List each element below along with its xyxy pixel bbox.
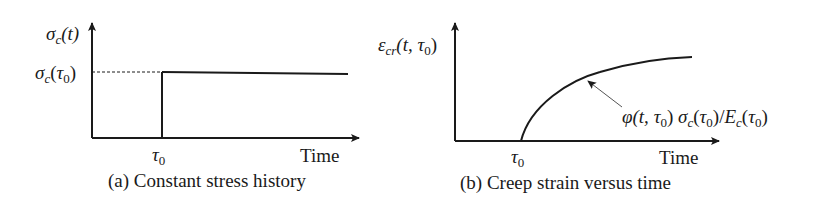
panel-b-annotation-leader <box>588 81 622 107</box>
subscript: 0 <box>159 153 166 168</box>
subscript: cr <box>386 43 397 58</box>
subscript: 0 <box>518 155 525 170</box>
panel-a-tau0-tick-label: τ0 <box>152 145 165 167</box>
panel-a-level-label: σc(τ0) <box>35 63 76 85</box>
phi-symbol: φ <box>622 106 633 127</box>
panel-a-caption: (a) Constant stress history <box>108 171 306 190</box>
paren: ) <box>761 106 767 127</box>
panel-b-curve-annotation: φ(t, τ0) σc(τ0)/Ec(τ0) <box>622 107 768 129</box>
epsilon-symbol: ε <box>378 34 386 55</box>
tau-symbol: τ <box>748 106 755 127</box>
panel-a-x-axis-label: Time <box>300 146 339 165</box>
argument: (t, <box>396 34 417 55</box>
panel-b-x-axis-label: Time <box>659 148 698 167</box>
paren: ) <box>431 34 437 55</box>
panel-b-y-axis-label: εcr(t, τ0) <box>378 35 437 57</box>
sigma-symbol: σ <box>35 62 44 83</box>
tau-symbol: τ <box>152 144 159 165</box>
panel-b-caption: (b) Creep strain versus time <box>460 173 671 192</box>
paren: ) <box>70 62 76 83</box>
modulus-symbol: E <box>724 106 736 127</box>
panel-b-tau0-tick-label: τ0 <box>511 147 524 169</box>
panel-a-stress-level <box>162 72 348 74</box>
argument: (t, <box>633 106 654 127</box>
paren: ) <box>667 106 678 127</box>
argument: (t) <box>61 23 79 44</box>
tau-symbol: τ <box>511 146 518 167</box>
panel-a-y-axis-label: σc(t) <box>46 24 79 46</box>
sigma-symbol: σ <box>678 106 687 127</box>
sigma-symbol: σ <box>46 23 55 44</box>
panel-a-graph <box>92 23 359 138</box>
paren-slash: )/ <box>713 106 725 127</box>
